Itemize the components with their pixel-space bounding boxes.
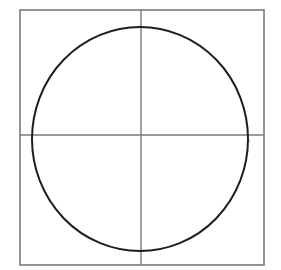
circle-diagram [0, 0, 281, 270]
marker-dot [248, 140, 250, 142]
